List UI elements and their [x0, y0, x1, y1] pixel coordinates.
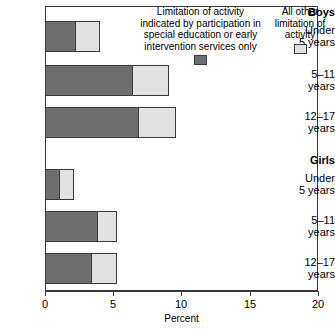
- bar-segment-special-ed: [45, 65, 132, 96]
- bar-segment-special-ed: [45, 169, 59, 200]
- x-tick-0: [45, 291, 46, 296]
- bar-segment-special-ed: [45, 253, 91, 284]
- bar-girls-under-5: [45, 169, 74, 200]
- category-label-girls-5-11: 5–11 years: [292, 214, 335, 238]
- bar-segment-all-other: [91, 253, 117, 284]
- x-tick-5: [113, 291, 114, 296]
- label-line-2: years: [292, 268, 335, 280]
- x-tick-label-10: 10: [166, 298, 196, 310]
- bar-segment-all-other: [59, 169, 74, 200]
- bar-segment-all-other: [97, 211, 117, 242]
- category-label-boys-5-11: 5–11 years: [292, 68, 335, 92]
- x-tick-label-15: 15: [235, 298, 265, 310]
- legend-line-2: indicated by participation in: [132, 18, 269, 30]
- legend-line-4: intervention services only: [132, 41, 269, 53]
- x-tick-label-0: 0: [30, 298, 60, 310]
- legend-entry-all-other: All other limitation of activity: [269, 6, 331, 54]
- label-line-2: years: [292, 226, 335, 238]
- bar-segment-special-ed: [45, 107, 138, 138]
- x-axis-title: Percent: [45, 313, 318, 325]
- bar-boys-under-5: [45, 21, 100, 52]
- bar-boys-12-17: [45, 107, 176, 138]
- group-header-girls: Girls: [292, 155, 335, 166]
- category-label-girls-12-17: 12–17 years: [292, 256, 335, 280]
- legend-line-3: special education or early: [132, 29, 269, 41]
- bar-segment-all-other: [132, 65, 169, 96]
- bar-segment-special-ed: [45, 211, 97, 242]
- label-line-1: 5–11: [292, 214, 335, 226]
- legend-label-special-ed: Limitation of activity indicated by part…: [132, 6, 269, 52]
- legend-label-all-other: All other limitation of activity: [269, 6, 331, 41]
- bar-girls-5-11: [45, 211, 117, 242]
- legend-line-1: Limitation of activity: [132, 6, 269, 18]
- x-tick-label-20: 20: [303, 298, 333, 310]
- legend-entry-special-ed: Limitation of activity indicated by part…: [132, 6, 269, 65]
- label-line-1: 12–17: [292, 256, 335, 268]
- bar-segment-all-other: [75, 21, 100, 52]
- label-line-1: 12–17: [292, 110, 335, 122]
- label-line-1: Under: [292, 172, 335, 184]
- label-line-1: 5–11: [292, 68, 335, 80]
- legend-swatch-all-other: [294, 44, 307, 54]
- category-label-girls-under-5: Under 5 years: [292, 172, 335, 196]
- bar-boys-5-11: [45, 65, 169, 96]
- bar-segment-special-ed: [45, 21, 75, 52]
- x-tick-15: [250, 291, 251, 296]
- bar-segment-all-other: [138, 107, 176, 138]
- stacked-bar-chart: Boys Under 5 years 5–11 years 12–17 year…: [0, 0, 335, 335]
- x-tick-label-5: 5: [98, 298, 128, 310]
- label-line-2: years: [292, 80, 335, 92]
- label-line-2: 5 years: [292, 184, 335, 196]
- legend-swatch-special-ed: [194, 55, 207, 65]
- x-tick-10: [181, 291, 182, 296]
- bar-girls-12-17: [45, 253, 117, 284]
- legend-line-3: activity: [269, 29, 331, 41]
- legend-line-1: All other: [269, 6, 331, 18]
- chart-legend: Limitation of activity indicated by part…: [132, 6, 332, 65]
- legend-line-2: limitation of: [269, 18, 331, 30]
- category-label-boys-12-17: 12–17 years: [292, 110, 335, 134]
- label-line-2: years: [292, 122, 335, 134]
- x-tick-20: [318, 291, 319, 296]
